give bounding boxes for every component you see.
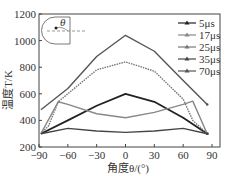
y-tick-label: 600: [20, 88, 37, 100]
y-tick-label: 400: [20, 114, 37, 126]
series-5μs: [41, 94, 207, 134]
x-tick-label: −30: [88, 149, 106, 161]
y-axis: 20040060080010001200: [14, 8, 42, 153]
legend-entry: 5μs: [199, 17, 215, 29]
series-25μs: [41, 62, 207, 134]
inset-diagram: θ: [42, 16, 85, 44]
x-tick-label: 0: [123, 149, 129, 161]
svg-text:温度T/K: 温度T/K: [1, 70, 14, 110]
chart: 20040060080010001200 −90−60−300306090 θ …: [0, 0, 231, 176]
y-tick-label: 800: [20, 61, 37, 73]
x-tick-label: 90: [207, 149, 219, 161]
x-tick-label: 30: [149, 149, 161, 161]
plot-area: [39, 14, 220, 147]
y-tick-label: 1200: [14, 8, 37, 20]
svg-text:角度θ/(°): 角度θ/(°): [107, 161, 149, 175]
svg-text:θ: θ: [60, 16, 66, 28]
legend-entry: 35μs: [199, 53, 220, 65]
series-lines: [41, 35, 209, 135]
x-tick-label: 60: [178, 149, 190, 161]
x-tick-label: −90: [30, 149, 48, 161]
series-35μs: [41, 128, 207, 133]
legend-entry: 70μs: [199, 65, 220, 77]
y-tick-label: 1000: [14, 35, 37, 47]
legend: 5μs17μs25μs35μs70μs: [178, 17, 220, 77]
legend-entry: 25μs: [199, 41, 220, 53]
x-tick-label: −60: [59, 149, 77, 161]
legend-entry: 17μs: [199, 29, 220, 41]
